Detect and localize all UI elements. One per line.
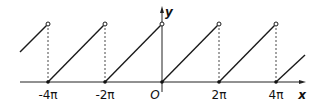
open-point-icon: [217, 22, 221, 26]
closed-point-icon: [217, 80, 221, 84]
closed-point-icon: [46, 80, 50, 84]
tick-label-neg4pi: -4π: [38, 88, 57, 102]
segment-3: [162, 26, 218, 83]
sawtooth-chart: -4π -2π O 2π 4π x y: [0, 0, 324, 103]
tick-label-2pi: 2π: [212, 88, 227, 102]
open-endpoints: [46, 22, 278, 26]
closed-point-icon: [160, 80, 164, 84]
y-axis-arrow-icon: [160, 6, 164, 13]
tick-label-neg2pi: -2π: [95, 88, 114, 102]
segment-1: [48, 26, 104, 83]
open-point-icon: [103, 22, 107, 26]
x-axis-arrow-icon: [299, 80, 306, 84]
y-axis-label: y: [165, 5, 174, 19]
open-point-icon: [160, 22, 164, 26]
tick-label-origin: O: [150, 88, 159, 102]
segment-4: [219, 26, 275, 83]
x-axis-label: x: [297, 88, 307, 102]
open-point-icon: [46, 22, 50, 26]
closed-point-icon: [103, 80, 107, 84]
segment-5: [276, 55, 305, 82]
open-point-icon: [274, 22, 278, 26]
segment-0: [20, 26, 47, 53]
segment-2: [105, 26, 161, 83]
tick-label-4pi: 4π: [269, 88, 284, 102]
closed-point-icon: [274, 80, 278, 84]
